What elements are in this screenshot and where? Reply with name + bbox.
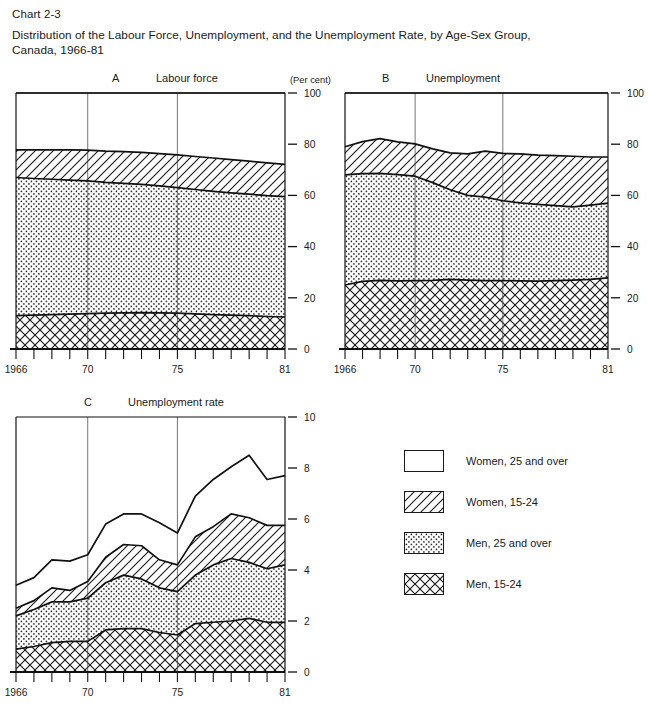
svg-text:100: 100 [627,88,644,99]
svg-text:1966: 1966 [5,364,28,375]
svg-text:81: 81 [279,364,291,375]
svg-text:1966: 1966 [5,687,28,698]
svg-text:40: 40 [627,241,639,252]
svg-text:8: 8 [304,463,310,474]
svg-text:4: 4 [304,565,310,576]
legend-label: Women, 25 and over [466,455,568,467]
legend-label: Women, 15-24 [466,496,538,508]
legend-item: Women, 15-24 [404,490,568,514]
svg-text:20: 20 [627,293,639,304]
legend-label: Men, 15-24 [466,578,522,590]
svg-text:40: 40 [304,241,316,252]
legend-swatch-men-25-over [404,532,444,554]
svg-text:0: 0 [304,344,310,355]
svg-text:81: 81 [279,687,291,698]
legend-swatch-men-15-24 [404,573,444,595]
legend-item: Women, 25 and over [404,449,568,473]
legend-item: Men, 15-24 [404,572,568,596]
svg-text:70: 70 [82,364,94,375]
svg-text:20: 20 [304,293,316,304]
panel-a-chart: 0204060801001966707581 [0,60,340,380]
svg-text:80: 80 [304,139,316,150]
svg-text:70: 70 [409,364,421,375]
svg-text:70: 70 [82,687,94,698]
panel-b-chart: 0204060801001966707581 [330,60,648,380]
svg-text:10: 10 [304,412,316,423]
chart-number: Chart 2-3 [12,8,61,20]
svg-text:1966: 1966 [334,364,357,375]
svg-text:81: 81 [602,364,614,375]
svg-text:6: 6 [304,514,310,525]
svg-text:75: 75 [497,364,509,375]
svg-text:100: 100 [304,88,321,99]
legend-item: Men, 25 and over [404,531,568,555]
svg-text:0: 0 [304,667,310,678]
svg-text:75: 75 [172,364,184,375]
svg-text:2: 2 [304,616,310,627]
svg-text:60: 60 [627,190,639,201]
svg-text:0: 0 [627,344,633,355]
svg-text:80: 80 [627,139,639,150]
svg-text:75: 75 [172,687,184,698]
page-title: Distribution of the Labour Force, Unempl… [12,28,532,57]
legend: Women, 25 and over Women, 15-24 Men, 25 … [404,449,568,613]
legend-label: Men, 25 and over [466,537,552,549]
svg-text:60: 60 [304,190,316,201]
legend-swatch-women-25-over [404,450,444,472]
legend-swatch-women-15-24 [404,491,444,513]
panel-c-chart: 02468101966707581 [0,385,340,705]
